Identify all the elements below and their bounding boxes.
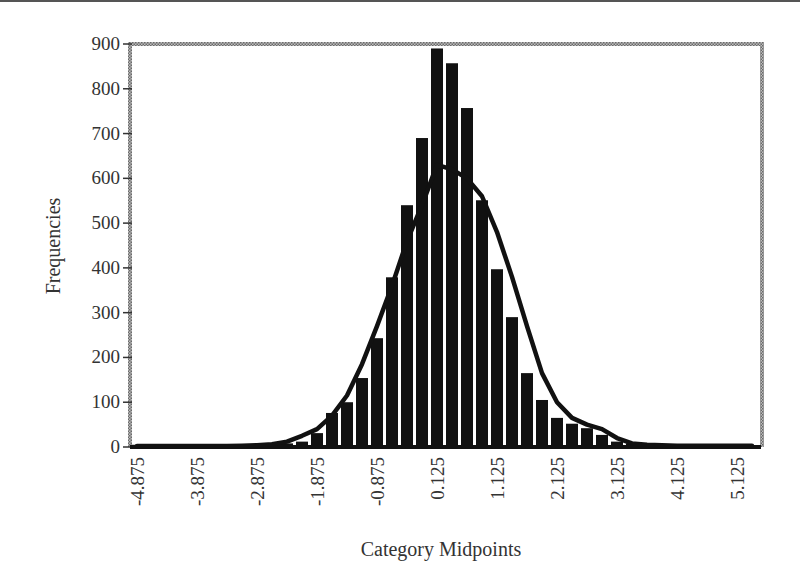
plot-border-right — [760, 42, 764, 447]
histogram-bar — [341, 402, 353, 447]
histogram-bar — [476, 200, 488, 447]
x-axis-title: Category Midpoints — [361, 538, 522, 561]
x-tick-label: 2.125 — [547, 457, 568, 500]
y-tick-label: 100 — [92, 391, 121, 412]
y-tick-label: 900 — [92, 33, 121, 54]
x-tick-label: -4.875 — [127, 457, 148, 506]
histogram-bar — [311, 433, 323, 447]
x-tick-label: -0.875 — [367, 457, 388, 506]
x-axis: -4.875-3.875-2.875-1.875-0.8750.1251.125… — [127, 457, 748, 506]
y-tick-label: 500 — [92, 212, 121, 233]
x-tick-label: -1.875 — [307, 457, 328, 506]
histogram-bar — [371, 338, 383, 447]
y-axis-title: Frequencies — [42, 197, 65, 294]
histogram-bar — [581, 428, 593, 447]
histogram-chart: 0100200300400500600700800900 -4.875-3.87… — [0, 0, 800, 585]
histogram-bar — [506, 317, 518, 447]
histogram-bar — [566, 424, 578, 447]
histogram-bar — [551, 418, 563, 447]
histogram-bar — [431, 48, 443, 447]
x-tick-label: 0.125 — [427, 457, 448, 500]
normal-curve-line — [137, 165, 752, 446]
histogram-bar — [446, 63, 458, 447]
y-tick-label: 700 — [92, 123, 121, 144]
y-tick-label: 200 — [92, 346, 121, 367]
y-axis: 0100200300400500600700800900 — [92, 33, 133, 457]
plot-border-left — [128, 42, 132, 447]
y-tick-label: 600 — [92, 167, 121, 188]
histogram-bars — [130, 48, 761, 447]
x-tick-label: 5.125 — [727, 457, 748, 500]
y-tick-label: 800 — [92, 78, 121, 99]
histogram-bar — [416, 138, 428, 447]
x-tick-label: 3.125 — [607, 457, 628, 500]
x-tick-label: 1.125 — [487, 457, 508, 500]
y-tick-label: 400 — [92, 257, 121, 278]
plot-border-top — [130, 42, 763, 46]
y-tick-label: 0 — [111, 436, 121, 457]
histogram-bar — [536, 400, 548, 447]
y-tick-label: 300 — [92, 302, 121, 323]
normal-curve — [137, 165, 752, 446]
histogram-bar — [461, 108, 473, 447]
histogram-bar — [356, 378, 368, 447]
histogram-bar — [491, 269, 503, 447]
histogram-bar — [521, 373, 533, 447]
x-tick-label: -3.875 — [187, 457, 208, 506]
x-tick-label: 4.125 — [667, 457, 688, 500]
x-tick-label: -2.875 — [247, 457, 268, 506]
